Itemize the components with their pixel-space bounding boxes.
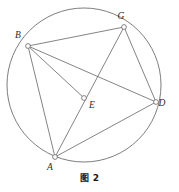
vertex-point-b xyxy=(26,44,31,49)
vertex-point-e xyxy=(82,96,87,101)
segment-group xyxy=(28,27,156,157)
circumcircle xyxy=(7,8,161,162)
vertex-label-a: A xyxy=(46,162,53,172)
segment-bg xyxy=(28,27,124,46)
geometry-figure: B G D A E 图 2 xyxy=(0,0,179,192)
segment-bd xyxy=(28,46,156,102)
segment-ad xyxy=(55,102,156,157)
vertex-label-e: E xyxy=(88,100,95,110)
vertex-label-g: G xyxy=(118,11,125,21)
segment-ba xyxy=(28,46,55,157)
vertex-label-b: B xyxy=(15,30,21,40)
segment-be xyxy=(28,46,84,98)
vertex-label-d: D xyxy=(158,98,166,108)
segment-ga xyxy=(55,27,124,157)
vertex-point-g xyxy=(122,25,127,30)
segment-gd xyxy=(124,27,156,102)
figure-caption: 图 2 xyxy=(0,172,179,184)
vertex-point-a xyxy=(53,155,58,160)
geometry-diagram-canvas: B G D A E xyxy=(0,0,179,192)
